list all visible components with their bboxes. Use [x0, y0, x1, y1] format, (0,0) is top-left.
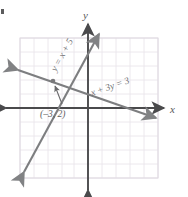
intersection-point-marker — [51, 79, 56, 84]
coordinate-plane-svg: x y y = x + 5 x + 3y = 3 (–3, 2) — [0, 0, 188, 197]
graph-figure: x y y = x + 5 x + 3y = 3 (–3, 2) — [0, 0, 188, 197]
y-axis-label: y — [82, 9, 88, 21]
x-axis-label: x — [169, 103, 175, 115]
intersection-point-label: (–3, 2) — [40, 109, 65, 120]
